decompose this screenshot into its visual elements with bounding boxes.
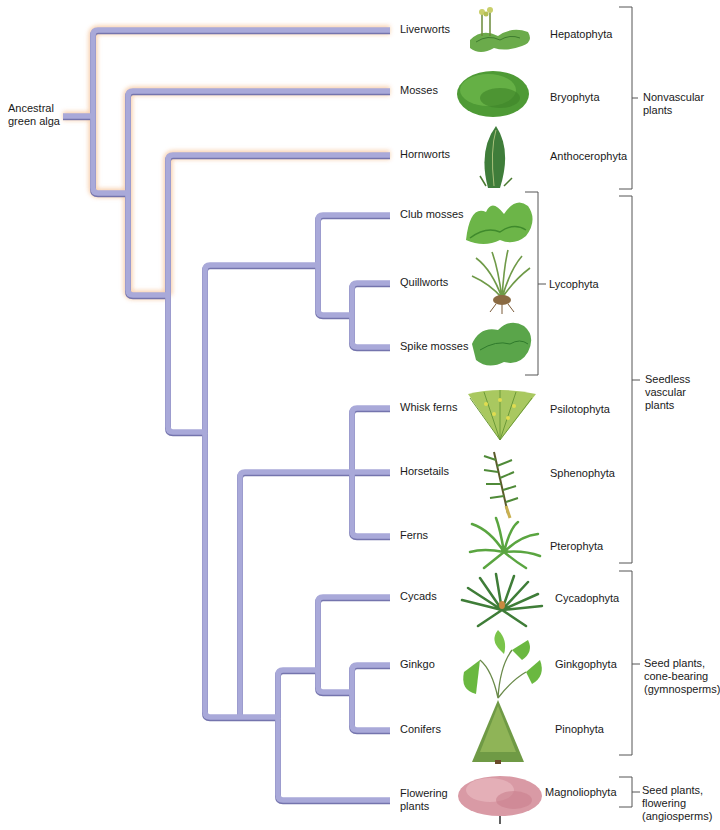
mosses-illustration [457, 71, 529, 117]
nonvascular-glow [63, 30, 390, 295]
spike-mosses-illustration [472, 323, 531, 366]
branch-quillworts-spike [352, 283, 390, 347]
phylum-label-hepatophyta: Hepatophyta [550, 28, 612, 41]
group-label-angiosperms: Seed plants, flowering (angiosperms) [642, 784, 712, 823]
taxon-label-ferns: Ferns [400, 529, 428, 542]
quillworts-illustration [472, 250, 530, 314]
ferns-illustration [470, 518, 540, 568]
branch-gymnosperms [278, 670, 318, 717]
taxon-label-cycads: Cycads [400, 590, 437, 603]
cycads-illustration [462, 574, 542, 626]
bracket-angiosperms [619, 777, 640, 807]
branch-hornworts [168, 155, 390, 432]
branch-liverworts [93, 30, 390, 193]
ginkgo-illustration [463, 630, 542, 698]
bracket-gymnosperms [619, 571, 640, 755]
liverworts-illustration [470, 7, 530, 52]
phylum-label-bryophyta: Bryophyta [550, 91, 600, 104]
phylogenetic-tree [0, 0, 720, 830]
group-label-nonvascular: Nonvascular plants [643, 91, 704, 117]
hornworts-illustration [480, 126, 512, 188]
taxon-label-flowering-plants: Flowering plants [400, 787, 448, 813]
taxon-label-club-mosses: Club mosses [400, 208, 464, 221]
phylum-label-pinophyta: Pinophyta [555, 723, 604, 736]
branch-ginkgo-conifers [352, 665, 390, 730]
branch-lycophytes [205, 265, 318, 432]
phylum-label-pterophyta: Pterophyta [550, 540, 603, 553]
taxon-label-whisk-ferns: Whisk ferns [400, 401, 457, 414]
taxon-label-conifers: Conifers [400, 723, 441, 736]
group-label-gymnosperms: Seed plants, cone-bearing (gymnosperms) [644, 657, 720, 696]
branches [63, 30, 390, 800]
phylum-label-ginkgophyta: Ginkgophyta [555, 658, 617, 671]
phylum-label-magnoliophyta: Magnoliophyta [545, 786, 617, 799]
group-label-seedless-vascular: Seedless vascular plants [645, 373, 690, 412]
branches-shadow [63, 31, 390, 801]
branch-euphyllophytes [205, 432, 240, 717]
club-mosses-illustration [466, 202, 533, 244]
whisk-ferns-illustration [468, 390, 536, 440]
taxon-label-spike-mosses: Spike mosses [400, 340, 468, 353]
taxon-label-liverworts: Liverworts [400, 23, 450, 36]
taxon-label-quillworts: Quillworts [400, 276, 448, 289]
phylum-label-sphenophyta: Sphenophyta [550, 467, 615, 480]
conifers-illustration [472, 700, 524, 764]
horsetails-illustration [484, 452, 518, 518]
bracket-seedless [619, 196, 640, 563]
taxon-label-hornworts: Hornworts [400, 148, 450, 161]
root-label: Ancestral green alga [8, 102, 60, 128]
taxon-label-mosses: Mosses [400, 84, 438, 97]
phylum-label-cycadophyta: Cycadophyta [555, 592, 619, 605]
taxon-label-horsetails: Horsetails [400, 465, 449, 478]
phylum-label-anthocerophyta: Anthocerophyta [550, 150, 627, 163]
phylum-label-psilotophyta: Psilotophyta [550, 403, 610, 416]
flowering-plants-illustration [458, 776, 542, 824]
phylum-label-lycophyta: Lycophyta [549, 278, 599, 291]
taxon-label-ginkgo: Ginkgo [400, 658, 435, 671]
